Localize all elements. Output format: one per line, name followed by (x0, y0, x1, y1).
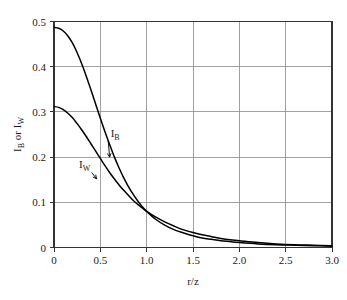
x-axis-title: r/z (187, 275, 199, 287)
chart-svg: 00.51.01.52.02.53.0 00.10.20.30.40.5 IBI… (0, 0, 347, 300)
vertical-gridlines (100, 22, 285, 248)
x-tick-label-6: 3.0 (325, 254, 339, 266)
y-tick-label-1: 0.1 (32, 196, 46, 208)
x-tick-label-3: 1.5 (186, 254, 200, 266)
x-axis-tickmarks (54, 248, 332, 252)
curve-label-w: IW (79, 158, 91, 173)
x-tick-label-2: 1.0 (140, 254, 154, 266)
y-axis-tickmarks (50, 22, 54, 248)
x-tick-label-4: 2.0 (232, 254, 246, 266)
y-tick-label-3: 0.3 (32, 106, 46, 118)
x-axis-tick-labels: 00.51.01.52.02.53.0 (51, 254, 339, 266)
x-tick-label-1: 0.5 (93, 254, 107, 266)
chart-figure: 00.51.01.52.02.53.0 00.10.20.30.40.5 IBI… (0, 0, 347, 300)
y-tick-label-0: 0 (41, 242, 47, 254)
x-tick-label-5: 2.5 (279, 254, 293, 266)
x-tick-label-0: 0 (51, 254, 57, 266)
y-axis-tick-labels: 00.10.20.30.40.5 (32, 16, 46, 254)
y-axis-title-text: IB or IW (11, 117, 26, 152)
curve-label-b: IB (111, 127, 120, 142)
y-tick-label-4: 0.4 (32, 61, 46, 73)
y-tick-label-5: 0.5 (32, 16, 46, 28)
y-axis-title: IB or IW (11, 117, 26, 152)
y-tick-label-2: 0.2 (32, 151, 46, 163)
